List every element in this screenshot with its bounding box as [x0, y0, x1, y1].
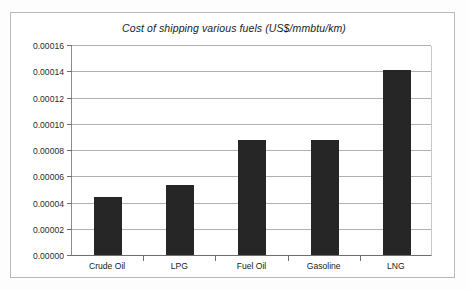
- bar[interactable]: [238, 140, 266, 255]
- y-axis-labels: 0.000000.000020.000040.000060.000080.000…: [0, 46, 64, 256]
- chart-figure: Cost of shipping various fuels (US$/mmbt…: [0, 0, 468, 290]
- x-axis-tick-mark: [215, 256, 216, 261]
- x-axis-tick-mark: [288, 256, 289, 261]
- bar[interactable]: [383, 70, 411, 255]
- x-axis-tick-mark: [360, 256, 361, 261]
- y-axis-tick-label: 0.00006: [33, 172, 64, 182]
- x-axis-tick-label: LNG: [360, 261, 432, 271]
- y-axis-tick-label: 0.00000: [33, 251, 64, 261]
- y-axis-tick-label: 0.00016: [33, 41, 64, 51]
- bar-slot: [216, 46, 288, 255]
- y-axis-tick-mark: [67, 255, 72, 256]
- y-axis-tick-label: 0.00002: [33, 225, 64, 235]
- bar-slot: [72, 46, 144, 255]
- y-axis-tick-label: 0.00008: [33, 146, 64, 156]
- bar-slot: [289, 46, 361, 255]
- bar[interactable]: [166, 185, 194, 255]
- y-axis-tick-label: 0.00012: [33, 94, 64, 104]
- chart-title: Cost of shipping various fuels (US$/mmbt…: [0, 22, 468, 34]
- y-axis-tick-label: 0.00004: [33, 199, 64, 209]
- x-axis-tick-label: LPG: [143, 261, 215, 271]
- gridline: [72, 255, 431, 256]
- x-axis-tick-label: Crude Oil: [71, 261, 143, 271]
- y-axis-tick-label: 0.00014: [33, 67, 64, 77]
- bar[interactable]: [94, 197, 122, 255]
- x-axis-tick-label: Gasoline: [288, 261, 360, 271]
- x-axis-tick-label: Fuel Oil: [215, 261, 287, 271]
- x-axis-tick-mark: [143, 256, 144, 261]
- plot-area: [71, 46, 432, 256]
- bar[interactable]: [311, 140, 339, 255]
- y-axis-tick-label: 0.00010: [33, 120, 64, 130]
- bar-slot: [361, 46, 433, 255]
- bar-slot: [144, 46, 216, 255]
